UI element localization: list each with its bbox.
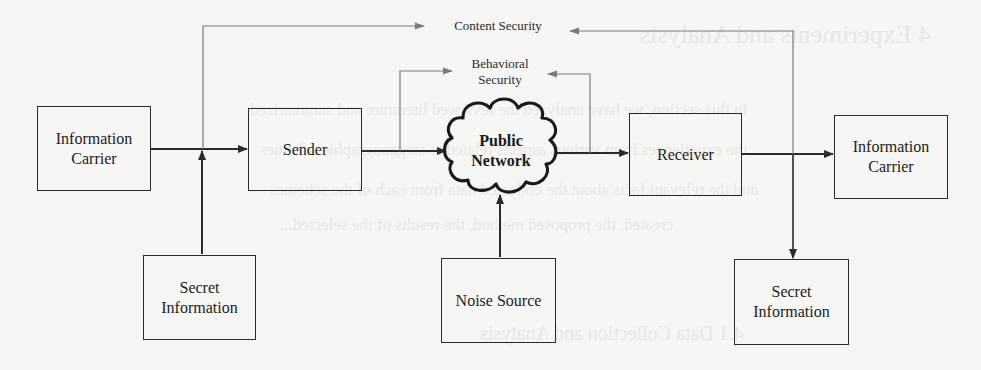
- node-label: Information: [853, 137, 929, 157]
- behavioral-security-line2: Security: [455, 72, 545, 88]
- edge-behavioral-security-right: [548, 74, 590, 153]
- receiver-box: Receiver: [629, 113, 742, 196]
- node-label: Receiver: [657, 145, 714, 165]
- node-label: Secret: [753, 282, 829, 302]
- node-label: Public: [455, 131, 547, 151]
- information-carrier-left-box: Information Carrier: [37, 106, 151, 191]
- sender-box: Sender: [248, 108, 362, 191]
- node-label: Network: [455, 151, 547, 171]
- edge-behavioral-security-left: [400, 71, 452, 151]
- information-carrier-right-box: Information Carrier: [834, 115, 948, 199]
- node-label: Sender: [283, 140, 327, 160]
- node-label: Information: [161, 298, 237, 318]
- behavioral-security-label: Behavioral Security: [455, 56, 545, 88]
- node-label: Information: [753, 302, 829, 322]
- node-label: Secret: [161, 278, 237, 298]
- node-label: Information: [56, 129, 132, 149]
- node-label: Carrier: [853, 157, 929, 177]
- secret-information-left-box: Secret Information: [143, 255, 256, 340]
- node-label: Noise Source: [456, 291, 542, 311]
- behavioral-security-line1: Behavioral: [455, 56, 545, 72]
- diagram-canvas: 4 Experiments and Analysis In this secti…: [0, 0, 981, 370]
- public-network-label: Public Network: [455, 131, 547, 171]
- node-label: Carrier: [56, 149, 132, 169]
- noise-source-box: Noise Source: [441, 258, 556, 343]
- content-security-label: Content Security: [436, 18, 560, 34]
- secret-information-right-box: Secret Information: [734, 259, 849, 345]
